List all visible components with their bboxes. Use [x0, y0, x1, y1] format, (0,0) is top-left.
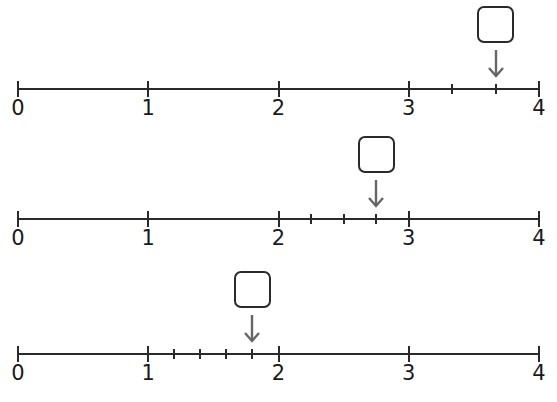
number-line-3: 01234 — [0, 0, 557, 402]
tick-label: 0 — [3, 361, 33, 385]
tick-label: 3 — [394, 361, 424, 385]
major-tick — [147, 346, 149, 362]
minor-tick — [225, 349, 227, 359]
major-tick — [278, 346, 280, 362]
minor-tick — [173, 349, 175, 359]
tick-label: 2 — [264, 361, 294, 385]
minor-tick — [251, 349, 253, 359]
answer-box[interactable] — [234, 271, 271, 308]
tick-label: 4 — [524, 361, 554, 385]
major-tick — [538, 346, 540, 362]
down-arrow-icon — [244, 314, 260, 344]
tick-label: 1 — [133, 361, 163, 385]
major-tick — [408, 346, 410, 362]
minor-tick — [199, 349, 201, 359]
major-tick — [17, 346, 19, 362]
